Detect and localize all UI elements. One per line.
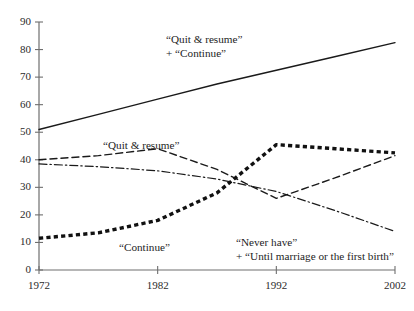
y-tick-label: 30 [7,181,31,192]
y-tick-label: 40 [7,154,31,165]
x-tick-label: 1992 [256,280,296,291]
label-continue-line-0: “Continue” [119,240,170,254]
y-tick-label: 50 [7,126,31,137]
y-tick-label: 60 [7,99,31,110]
y-tick-label: 10 [7,236,31,247]
label-quit-resume: “Quit & resume” [103,138,179,152]
y-tick-label: 90 [7,16,31,27]
y-tick-label: 70 [7,71,31,82]
label-quit-resume-plus-continue: “Quit & resume”+ “Continue” [166,32,242,60]
data-series-layer [39,43,395,239]
x-tick-label: 2002 [375,280,414,291]
label-never-have-line-0: “Never have” [236,235,394,249]
y-tick-label: 20 [7,209,31,220]
y-tick-label: 80 [7,44,31,55]
label-quit-resume-plus-continue-line-0: “Quit & resume” [166,32,242,46]
label-continue: “Continue” [119,240,170,254]
label-quit-resume-plus-continue-line-1: + “Continue” [166,46,242,60]
label-never-have: “Never have”+ “Until marriage or the fir… [236,235,394,263]
label-never-have-line-1: + “Until marriage or the first birth” [236,249,394,263]
x-tick-label: 1982 [138,280,178,291]
series-line-2 [39,164,395,232]
chart-container: 0102030405060708090 1972198219922002 “Qu… [0,0,414,311]
label-quit-resume-line-0: “Quit & resume” [103,138,179,152]
x-tick-label: 1972 [19,280,59,291]
y-tick-label: 0 [7,264,31,275]
series-line-3 [39,145,395,239]
